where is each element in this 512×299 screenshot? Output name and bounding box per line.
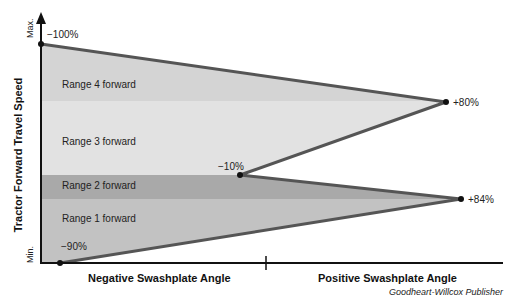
range1-label: Range 1 forward	[62, 213, 136, 224]
band-range4	[41, 40, 471, 101]
label-neg10: −10%	[218, 161, 244, 172]
label-neg90: −90%	[61, 241, 87, 252]
point-pos84	[458, 196, 464, 202]
swashplate-diagram: −100% +80% −10% +84% −90% Range 4 forwar…	[0, 0, 512, 299]
x-axis-negative-label: Negative Swashplate Angle	[88, 272, 231, 284]
point-neg10	[237, 172, 243, 178]
y-axis-title: Tractor Forward Travel Speed	[12, 78, 24, 233]
x-axis-positive-label: Positive Swashplate Angle	[318, 272, 457, 284]
point-neg100	[38, 41, 44, 47]
y-axis-arrow-icon	[36, 12, 46, 24]
range4-label: Range 4 forward	[62, 79, 136, 90]
range2-label: Range 2 forward	[62, 180, 136, 191]
point-neg90	[57, 260, 63, 266]
publisher-credit: Goodheart-Willcox Publisher	[389, 287, 504, 297]
label-neg100: −100%	[47, 29, 79, 40]
label-pos84: +84%	[468, 194, 494, 205]
range3-label: Range 3 forward	[62, 136, 136, 147]
y-max-label: Max.	[25, 18, 35, 38]
y-min-label: Min.	[25, 246, 35, 263]
point-pos80	[443, 99, 449, 105]
label-pos80: +80%	[453, 97, 479, 108]
